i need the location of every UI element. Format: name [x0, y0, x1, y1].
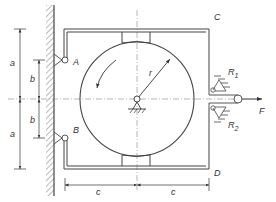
dimension-a-top [14, 29, 26, 99]
dimension-b-top-label: b [30, 74, 35, 84]
label-D: D [214, 168, 221, 178]
radius-arrow [137, 59, 170, 99]
dimension-a-top-label: a [10, 58, 15, 68]
rotation-arrow [97, 60, 116, 88]
label-A: A [72, 57, 79, 67]
hinge-A [54, 54, 68, 66]
dimension-a-bottom [14, 99, 26, 169]
radius-label: r [149, 68, 153, 78]
label-C: C [214, 12, 221, 22]
dimension-b-bottom-label: b [30, 115, 35, 125]
label-R1: R1 [228, 67, 239, 79]
dimension-a-bottom-label: a [10, 129, 15, 139]
fixed-wall [46, 5, 54, 196]
dimension-c-left [65, 178, 137, 191]
hinge-B [54, 132, 68, 144]
label-R2: R2 [228, 120, 239, 132]
dimension-c-right-label: c [171, 187, 176, 197]
brake-diagram: r A B C D R1 [0, 0, 276, 202]
label-B: B [73, 125, 79, 135]
roller-support-R1 [211, 76, 230, 92]
dimension-c-left-label: c [96, 187, 101, 197]
force-label: F [259, 106, 265, 116]
